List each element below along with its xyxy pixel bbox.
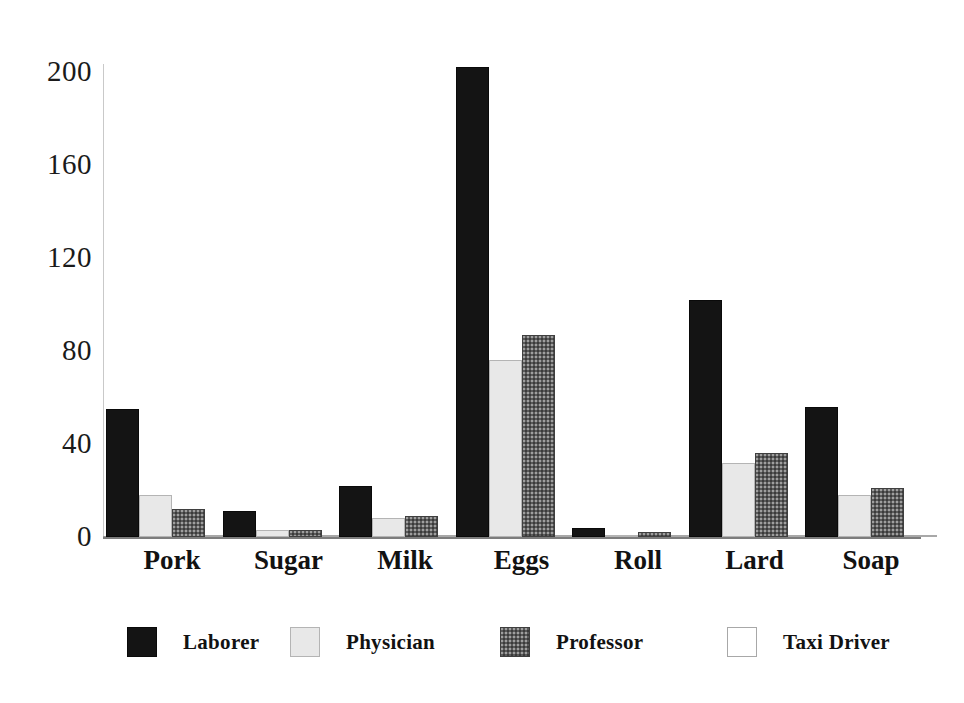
legend-item-laborer[interactable]: Laborer — [127, 620, 259, 664]
bar-milk-professor — [405, 516, 438, 537]
legend-swatch-physician — [290, 627, 320, 657]
x-axis-label-soap: Soap — [785, 547, 957, 574]
bar-milk-laborer — [339, 486, 372, 537]
bar-chart-figure: 04080120160200 PorkSugarMilkEggsRollLard… — [0, 0, 964, 703]
bar-soap-taxi-driver — [904, 535, 937, 537]
bar-sugar-laborer — [223, 511, 256, 537]
bar-eggs-physician — [489, 360, 522, 537]
bar-milk-physician — [372, 518, 405, 537]
bar-lard-physician — [722, 463, 755, 537]
legend-swatch-professor — [500, 627, 530, 657]
bar-soap-professor — [871, 488, 904, 537]
legend-item-professor[interactable]: Professor — [500, 620, 643, 664]
legend-item-taxi-driver[interactable]: Taxi Driver — [727, 620, 890, 664]
bar-sugar-physician — [256, 530, 289, 537]
bar-roll-professor — [638, 532, 671, 537]
bar-soap-physician — [838, 495, 871, 537]
legend-item-physician[interactable]: Physician — [290, 620, 435, 664]
bar-eggs-laborer — [456, 67, 489, 537]
bar-pork-laborer — [106, 409, 139, 537]
chart-legend: LaborerPhysicianProfessorTaxi Driver — [0, 620, 964, 666]
bar-roll-physician — [605, 535, 638, 538]
bar-lard-laborer — [689, 300, 722, 537]
bar-roll-laborer — [572, 528, 605, 537]
bar-lard-professor — [755, 453, 788, 537]
bars-layer: PorkSugarMilkEggsRollLardSoap — [0, 0, 964, 703]
legend-label-professor: Professor — [556, 630, 643, 655]
bar-pork-professor — [172, 509, 205, 537]
bar-sugar-professor — [289, 530, 322, 537]
legend-label-laborer: Laborer — [183, 630, 259, 655]
bar-eggs-professor — [522, 335, 555, 537]
bar-pork-physician — [139, 495, 172, 537]
legend-label-taxi-driver: Taxi Driver — [783, 630, 890, 655]
legend-swatch-taxi-driver — [727, 627, 757, 657]
bar-soap-laborer — [805, 407, 838, 537]
legend-label-physician: Physician — [346, 630, 435, 655]
legend-swatch-laborer — [127, 627, 157, 657]
